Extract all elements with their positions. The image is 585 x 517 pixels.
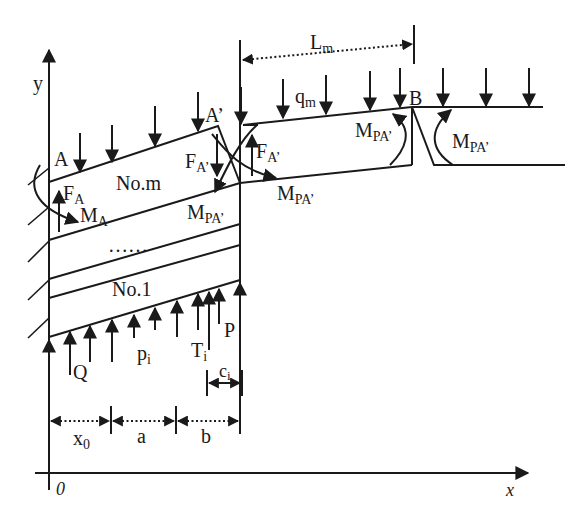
layer-ellipsis: …… — [108, 234, 148, 256]
ci-label: ci — [219, 361, 231, 383]
point-A-prime-label: A’ — [205, 104, 224, 126]
MPA-right-label: MPA’ — [277, 182, 315, 207]
MA-label: MA — [80, 204, 109, 229]
Q-label: Q — [73, 361, 88, 383]
FA-prime-left-label: FA’ — [185, 150, 209, 175]
b-label: b — [201, 425, 211, 447]
Lm-label: Lm — [310, 31, 333, 56]
point-B-label: B — [409, 87, 422, 109]
strata-layers — [49, 126, 240, 337]
qm-label: qm — [295, 85, 316, 110]
pi-label: pi — [137, 342, 151, 367]
moment-MPA-B-right-arrow — [435, 110, 453, 165]
FA-prime-right-label: FA’ — [256, 140, 280, 165]
layer-m-label: No.m — [116, 172, 161, 194]
broken-block — [240, 107, 565, 183]
Ti-label: Ti — [191, 339, 207, 364]
a-label: a — [137, 425, 146, 447]
y-axis-label: y — [33, 72, 43, 95]
load-arrows-layer-m — [80, 92, 198, 172]
MPA-B-right-label: MPA’ — [452, 130, 490, 155]
P-label: P — [224, 319, 235, 341]
MPA-B-left-label: MPA’ — [355, 119, 393, 144]
origin-label: 0 — [56, 479, 65, 499]
x-axis-label: x — [505, 480, 514, 500]
axes — [35, 50, 528, 490]
x0-label: x0 — [73, 427, 90, 452]
layered-strata-diagram: y x 0 — [0, 0, 585, 517]
block-top-edge — [243, 107, 412, 125]
MPA-left-label: MPA’ — [187, 201, 225, 226]
layer-1-label: No.1 — [112, 278, 151, 300]
point-A-label: A — [54, 148, 69, 170]
load-arrows-qm — [241, 68, 529, 124]
fixed-support-hatch — [28, 168, 49, 338]
block-bottom-edge — [240, 165, 412, 183]
